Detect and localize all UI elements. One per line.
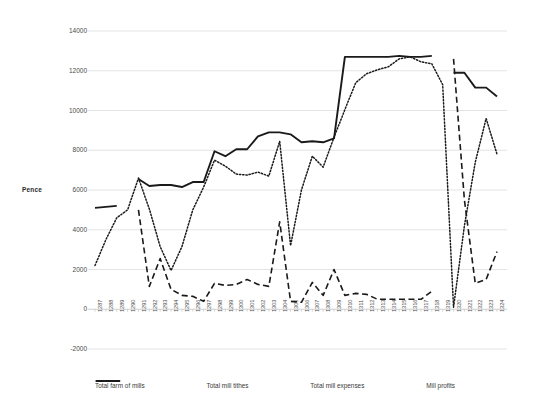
series-line bbox=[95, 206, 117, 208]
series-line bbox=[138, 56, 431, 187]
chart-container: Pence 14000120001000080006000400020000-2… bbox=[0, 0, 540, 409]
legend-item[interactable]: Total mill expenses bbox=[310, 382, 364, 389]
series-line bbox=[138, 210, 431, 302]
series-line bbox=[454, 73, 497, 97]
series-line bbox=[454, 59, 497, 284]
legend-item-label: Total mill tithes bbox=[207, 382, 249, 389]
legend-item-label: Mill profits bbox=[426, 382, 455, 389]
chart-legend: Total farm of millsTotal mill tithesTota… bbox=[95, 377, 455, 393]
legend-item-label: Total mill expenses bbox=[310, 382, 364, 389]
plot-area bbox=[0, 0, 540, 409]
legend-item[interactable]: Total mill tithes bbox=[207, 382, 249, 389]
legend-item[interactable]: Mill profits bbox=[426, 382, 455, 389]
legend-line-swatch bbox=[95, 377, 121, 385]
gridlines bbox=[88, 31, 507, 349]
